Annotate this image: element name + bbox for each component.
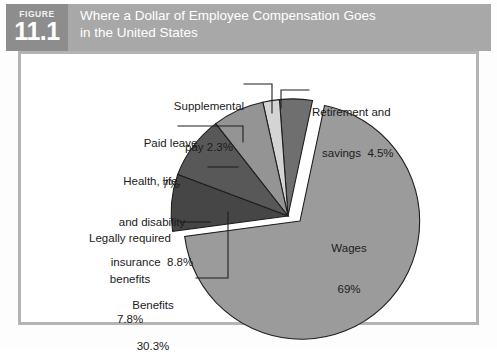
- label-retirement-and-savings: Retirement and savings 4.5%: [312, 79, 452, 187]
- label-benefits-line-1: Benefits: [96, 299, 210, 313]
- label-wages-line-2: 69%: [312, 283, 386, 297]
- figure-title: Where a Dollar of Employee Compensation …: [80, 7, 480, 41]
- figure-title-line-2: in the United States: [80, 24, 480, 41]
- label-benefits-line-2: 30.3%: [96, 340, 210, 354]
- label-retirement-line-1: Retirement and: [312, 106, 452, 120]
- label-wages-line-1: Wages: [312, 242, 386, 256]
- label-legally-line-1: Legally required: [60, 232, 200, 246]
- figure-number-label: 11.1: [6, 17, 68, 45]
- figure-title-line-1: Where a Dollar of Employee Compensation …: [80, 7, 480, 24]
- label-retirement-line-2: savings 4.5%: [312, 147, 452, 161]
- label-health-line-1: Health, life,: [82, 175, 222, 189]
- label-benefits-total: Benefits 30.3%: [96, 272, 210, 354]
- figure-number-box: FIGURE 11.1: [6, 4, 68, 51]
- label-wages: Wages 69%: [312, 215, 386, 323]
